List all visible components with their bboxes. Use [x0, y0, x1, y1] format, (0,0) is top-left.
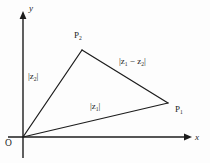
side-label-mod-z1: |z1|	[90, 102, 100, 111]
diagram-canvas	[0, 0, 210, 163]
triangle-side-z2	[23, 50, 82, 137]
side-label-mod-z2: |z2|	[28, 72, 38, 81]
x-axis-arrowhead-icon	[184, 134, 192, 141]
origin-label: O	[5, 139, 12, 149]
vertex-label-p2: P2	[74, 31, 82, 40]
mod-z2-subscript: 2	[34, 76, 37, 82]
mod-diff-subscript-2: 2	[141, 61, 144, 67]
y-axis-arrowhead-icon	[20, 11, 27, 19]
x-axis-label: x	[195, 133, 199, 142]
mod-diff-close-bar: |	[144, 56, 146, 66]
mod-z1-subscript: 1	[96, 106, 99, 112]
y-axis-label: y	[29, 4, 33, 13]
figure-container: y x O P2 P1 |z2| |z1| |z1 − z2|	[0, 0, 210, 163]
vertex-p2-subscript: 2	[79, 35, 82, 41]
mod-diff-minus-operator: − z	[128, 56, 142, 66]
vertex-p1-subscript: 1	[180, 109, 183, 115]
mod-diff-subscript-1: 1	[125, 61, 128, 67]
side-label-mod-z1-minus-z2: |z1 − z2|	[119, 57, 146, 66]
vertex-label-p1: P1	[175, 105, 183, 114]
